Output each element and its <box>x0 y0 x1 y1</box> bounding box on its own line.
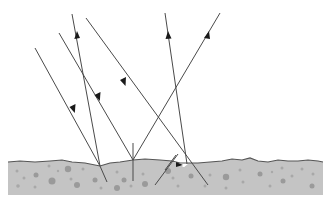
arrow-up-icon <box>166 31 172 39</box>
reflection-diagram <box>0 0 330 205</box>
incident-ray-1 <box>35 48 100 166</box>
arrow-down-icon <box>120 77 126 86</box>
arrow-up-icon <box>204 31 210 39</box>
ground-body <box>8 158 323 195</box>
